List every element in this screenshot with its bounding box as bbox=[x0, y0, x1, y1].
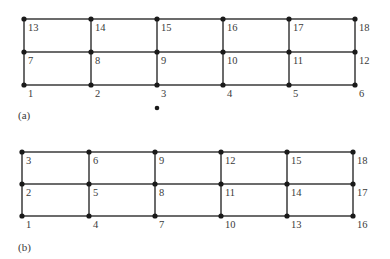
mesh-node bbox=[19, 213, 24, 218]
mesh-node bbox=[86, 149, 91, 154]
mesh-node bbox=[350, 181, 355, 186]
panel-b-caption: (b) bbox=[18, 241, 31, 254]
mesh-node bbox=[286, 82, 291, 87]
node-number-label: 2 bbox=[26, 187, 31, 198]
node-number-label: 17 bbox=[293, 22, 304, 33]
mesh-node bbox=[88, 82, 93, 87]
node-number-label: 10 bbox=[225, 219, 236, 230]
mesh-node bbox=[352, 82, 357, 87]
node-number-label: 8 bbox=[159, 187, 164, 198]
node-number-label: 7 bbox=[28, 55, 33, 66]
mesh-node bbox=[21, 49, 26, 54]
mesh-node bbox=[286, 49, 291, 54]
mesh-node bbox=[86, 181, 91, 186]
node-number-label: 18 bbox=[357, 155, 368, 166]
panel-b-column-numbered-mesh: 147101316258111417369121518 bbox=[19, 149, 367, 230]
node-number-label: 5 bbox=[93, 187, 98, 198]
node-number-label: 6 bbox=[359, 88, 364, 99]
mesh-node bbox=[88, 49, 93, 54]
node-number-label: 3 bbox=[161, 88, 166, 99]
node-number-label: 2 bbox=[95, 88, 100, 99]
mesh-node bbox=[220, 49, 225, 54]
mesh-node bbox=[218, 149, 223, 154]
mesh-node bbox=[88, 16, 93, 21]
node-number-label: 15 bbox=[291, 155, 302, 166]
node-number-label: 14 bbox=[291, 187, 302, 198]
node-number-label: 13 bbox=[28, 22, 39, 33]
node-number-label: 1 bbox=[28, 88, 33, 99]
node-number-label: 9 bbox=[159, 155, 164, 166]
mesh-node bbox=[86, 213, 91, 218]
mesh-node bbox=[286, 16, 291, 21]
mesh-node bbox=[284, 213, 289, 218]
node-number-label: 11 bbox=[293, 55, 303, 66]
mesh-node bbox=[350, 213, 355, 218]
node-number-label: 11 bbox=[225, 187, 235, 198]
node-number-label: 8 bbox=[95, 55, 100, 66]
mesh-node bbox=[154, 82, 159, 87]
mesh-node bbox=[284, 181, 289, 186]
mesh-node bbox=[352, 16, 357, 21]
mesh-node bbox=[218, 181, 223, 186]
node-number-label: 4 bbox=[93, 219, 99, 230]
panel-a-row-numbered-mesh: 123456789101112131415161718 bbox=[21, 16, 369, 99]
mesh-node bbox=[152, 213, 157, 218]
node-number-label: 10 bbox=[227, 55, 238, 66]
node-number-label: 13 bbox=[291, 219, 302, 230]
node-number-label: 3 bbox=[26, 155, 31, 166]
node-number-label: 15 bbox=[161, 22, 172, 33]
mesh-node bbox=[21, 16, 26, 21]
node-number-label: 5 bbox=[293, 88, 298, 99]
node-number-label: 14 bbox=[95, 22, 106, 33]
mesh-node bbox=[154, 16, 159, 21]
mesh-node bbox=[350, 149, 355, 154]
mesh-node bbox=[19, 181, 24, 186]
node-number-label: 4 bbox=[227, 88, 233, 99]
mesh-node bbox=[220, 16, 225, 21]
node-number-label: 9 bbox=[161, 55, 166, 66]
stray-dot bbox=[155, 106, 160, 111]
mesh-node bbox=[152, 149, 157, 154]
mesh-node bbox=[352, 49, 357, 54]
panel-a-caption: (a) bbox=[18, 109, 31, 122]
node-number-label: 17 bbox=[357, 187, 368, 198]
node-number-label: 6 bbox=[93, 155, 98, 166]
mesh-node bbox=[284, 149, 289, 154]
node-number-label: 1 bbox=[26, 219, 31, 230]
mesh-node bbox=[21, 82, 26, 87]
node-number-label: 18 bbox=[359, 22, 370, 33]
mesh-node bbox=[218, 213, 223, 218]
mesh-node bbox=[19, 149, 24, 154]
node-number-label: 7 bbox=[159, 219, 164, 230]
mesh-node bbox=[220, 82, 225, 87]
node-number-label: 12 bbox=[225, 155, 236, 166]
mesh-numbering-diagram: 123456789101112131415161718 147101316258… bbox=[0, 0, 390, 259]
mesh-node bbox=[154, 49, 159, 54]
mesh-node bbox=[152, 181, 157, 186]
node-number-label: 16 bbox=[227, 22, 238, 33]
node-number-label: 16 bbox=[357, 219, 368, 230]
node-number-label: 12 bbox=[359, 55, 370, 66]
